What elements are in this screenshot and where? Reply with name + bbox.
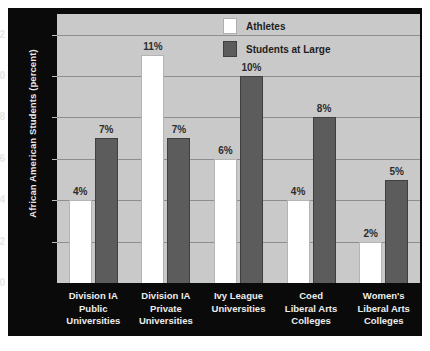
- bar-athletes-2: [214, 159, 237, 283]
- bar-athletes-0: [69, 200, 92, 283]
- y-tick-label: 2: [0, 237, 5, 247]
- y-tick-label: 6: [0, 154, 5, 164]
- chart-legend: AthletesStudents at Large: [223, 18, 373, 64]
- x-category-label-4: Women'sLiberal ArtsColleges: [340, 290, 428, 328]
- bar-athletes-1: [141, 55, 164, 283]
- bar-value-label: 10%: [232, 63, 272, 73]
- legend-label: Athletes: [246, 21, 285, 32]
- bar-students-4: [385, 180, 408, 283]
- bar-value-label: 5%: [377, 167, 417, 177]
- legend-item-0: Athletes: [223, 18, 373, 34]
- bar-students-3: [313, 117, 336, 283]
- bar-value-label: 8%: [304, 104, 344, 114]
- y-tick-label: 12: [0, 30, 5, 40]
- legend-item-1: Students at Large: [223, 41, 373, 57]
- y-tick-label: 0: [0, 278, 5, 288]
- bar-value-label: 7%: [159, 125, 199, 135]
- bar-students-1: [167, 138, 190, 283]
- bar-athletes-3: [287, 200, 310, 283]
- y-tick-label: 8: [0, 112, 5, 122]
- bar-athletes-4: [359, 242, 382, 283]
- legend-label: Students at Large: [246, 44, 330, 55]
- gray-swatch-icon: [223, 41, 237, 57]
- y-tick-label: 10: [0, 71, 5, 81]
- white-swatch-icon: [223, 18, 237, 34]
- y-tick-label: 4: [0, 195, 5, 205]
- y-axis-title: African American Students (percent): [27, 24, 38, 244]
- bar-value-label: 7%: [86, 125, 126, 135]
- chart-figure: African American Students (percent) 0246…: [8, 8, 422, 336]
- gridline: [57, 76, 420, 77]
- bar-students-0: [95, 138, 118, 283]
- gridline: [57, 117, 420, 118]
- bar-value-label: 11%: [133, 42, 173, 52]
- bar-students-2: [240, 76, 263, 283]
